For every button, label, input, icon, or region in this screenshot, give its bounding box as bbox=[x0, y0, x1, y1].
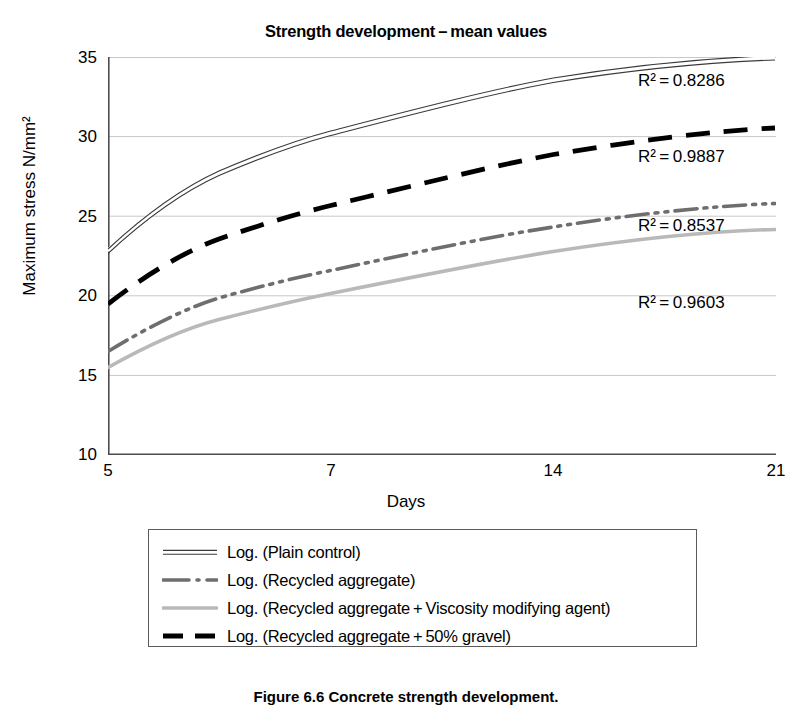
y-tick-label: 25 bbox=[78, 207, 97, 227]
legend-item-gravel-50: Log. (Recycled aggregate + 50% gravel) bbox=[162, 623, 511, 649]
legend-swatch-plain-control bbox=[162, 544, 218, 560]
x-tick-label: 14 bbox=[533, 461, 573, 481]
legend-swatch-recycled-aggregate bbox=[162, 572, 218, 588]
plot-area bbox=[108, 57, 776, 455]
legend-swatch-gravel-50 bbox=[162, 628, 218, 644]
legend-item-plain-control: Log. (Plain control) bbox=[162, 539, 361, 565]
y-tick-label: 15 bbox=[78, 366, 97, 386]
legend-label: Log. (Recycled aggregate) bbox=[227, 571, 415, 590]
y-tick-label: 30 bbox=[78, 127, 97, 147]
axes bbox=[108, 57, 776, 455]
y-tick-label: 20 bbox=[78, 286, 97, 306]
legend-item-viscosity-modifying-agent: Log. (Recycled aggregate + Viscosity mod… bbox=[162, 595, 610, 621]
x-tick-label: 5 bbox=[88, 461, 128, 481]
x-tick-label: 7 bbox=[311, 461, 351, 481]
y-tick-label: 35 bbox=[78, 48, 97, 68]
r2-annotation-gravel-50: R² = 0.9887 bbox=[638, 147, 725, 167]
legend-item-recycled-aggregate: Log. (Recycled aggregate) bbox=[162, 567, 415, 593]
legend-swatch-viscosity-modifying-agent bbox=[162, 600, 218, 616]
legend-label: Log. (Plain control) bbox=[227, 543, 361, 562]
x-tick-label: 21 bbox=[756, 461, 796, 481]
r2-annotation-recycled-aggregate: R² = 0.8537 bbox=[638, 216, 725, 236]
legend-label: Log. (Recycled aggregate + 50% gravel) bbox=[227, 627, 511, 646]
r2-annotation-viscosity-modifying-agent: R² = 0.9603 bbox=[638, 293, 725, 313]
r2-annotation-plain-control: R² = 0.8286 bbox=[638, 71, 725, 91]
chart-title: Strength development – mean values bbox=[0, 22, 812, 41]
x-axis-title: Days bbox=[0, 492, 812, 512]
legend: Log. (Plain control) Log. (Recycled aggr… bbox=[148, 529, 697, 647]
figure-caption: Figure 6.6 Concrete strength development… bbox=[0, 688, 812, 705]
legend-label: Log. (Recycled aggregate + Viscosity mod… bbox=[227, 599, 610, 618]
y-axis-title: Maximum stress N/mm² bbox=[20, 0, 40, 416]
